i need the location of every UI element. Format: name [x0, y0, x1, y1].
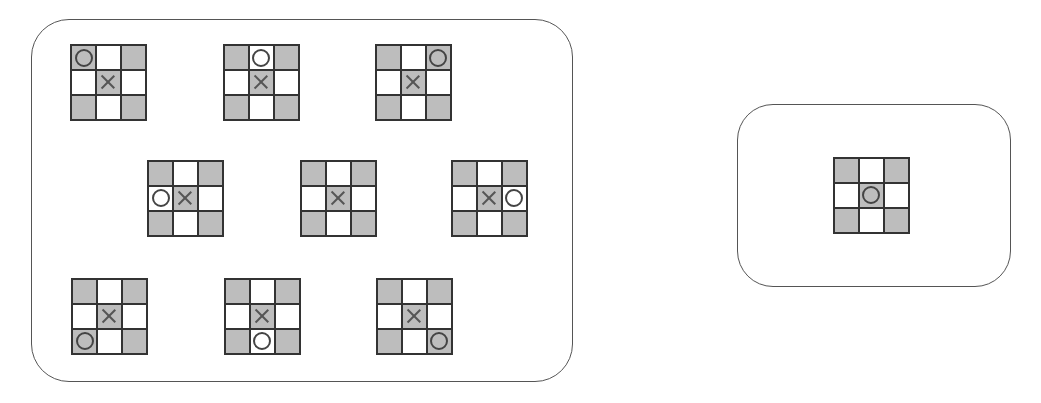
board-cell: [453, 187, 476, 210]
board-b7: [71, 278, 148, 355]
board-cell: [251, 280, 274, 303]
board-cell: [835, 159, 858, 182]
circle-mark-icon: [152, 189, 170, 207]
board-cell: [275, 96, 298, 119]
board-cell: [275, 46, 298, 69]
board-cell: [352, 187, 375, 210]
board-cell: [275, 71, 298, 94]
cross-mark-icon: [405, 74, 421, 90]
board-cell: [427, 71, 450, 94]
board-cell: [860, 159, 883, 182]
board-b9: [376, 278, 453, 355]
board-cell: [225, 71, 248, 94]
board-cell: [98, 280, 121, 303]
board-cell: [276, 305, 299, 328]
board-cell: [378, 280, 401, 303]
circle-mark-icon: [253, 332, 271, 350]
circle-mark-icon: [429, 49, 447, 67]
board-cell: [352, 212, 375, 235]
board-cell: [402, 71, 425, 94]
cross-mark-icon: [254, 308, 270, 324]
board-cell: [149, 187, 172, 210]
board-cell: [327, 212, 350, 235]
board-cell: [174, 162, 197, 185]
board-cell: [402, 46, 425, 69]
board-cell: [225, 46, 248, 69]
board-b6: [451, 160, 528, 237]
board-cell: [250, 96, 273, 119]
board-cell: [73, 280, 96, 303]
board-cell: [503, 187, 526, 210]
board-cell: [98, 305, 121, 328]
board-cell: [122, 46, 145, 69]
board-cell: [453, 212, 476, 235]
board-cell: [503, 212, 526, 235]
board-cell: [403, 330, 426, 353]
board-cell: [885, 209, 908, 232]
board-cell: [73, 305, 96, 328]
board-b3: [375, 44, 452, 121]
board-cell: [123, 330, 146, 353]
board-cell: [478, 162, 501, 185]
board-cell: [226, 330, 249, 353]
cross-mark-icon: [101, 308, 117, 324]
board-cell: [149, 162, 172, 185]
board-cell: [72, 46, 95, 69]
board-cell: [327, 162, 350, 185]
board-cell: [276, 330, 299, 353]
board-cell: [378, 330, 401, 353]
board-cell: [885, 184, 908, 207]
circle-mark-icon: [252, 49, 270, 67]
cross-mark-icon: [330, 190, 346, 206]
board-cell: [97, 71, 120, 94]
board-cell: [302, 187, 325, 210]
board-cell: [98, 330, 121, 353]
board-cell: [97, 96, 120, 119]
board-cell: [250, 71, 273, 94]
board-cell: [226, 305, 249, 328]
board-cell: [427, 46, 450, 69]
board-cell: [73, 330, 96, 353]
circle-mark-icon: [505, 189, 523, 207]
board-cell: [428, 305, 451, 328]
board-cell: [174, 187, 197, 210]
board-b5: [300, 160, 377, 237]
cross-mark-icon: [481, 190, 497, 206]
circle-mark-icon: [430, 332, 448, 350]
board-cell: [860, 184, 883, 207]
board-cell: [885, 159, 908, 182]
board-cell: [250, 46, 273, 69]
board-cell: [199, 212, 222, 235]
board-b10: [833, 157, 910, 234]
board-cell: [427, 96, 450, 119]
board-cell: [122, 96, 145, 119]
board-cell: [122, 71, 145, 94]
board-cell: [251, 330, 274, 353]
cross-mark-icon: [177, 190, 193, 206]
board-cell: [835, 209, 858, 232]
board-cell: [377, 71, 400, 94]
board-cell: [403, 280, 426, 303]
board-cell: [478, 212, 501, 235]
board-cell: [327, 187, 350, 210]
board-cell: [402, 96, 425, 119]
board-cell: [149, 212, 172, 235]
board-cell: [251, 305, 274, 328]
board-cell: [97, 46, 120, 69]
cross-mark-icon: [253, 74, 269, 90]
board-cell: [123, 280, 146, 303]
board-cell: [377, 96, 400, 119]
board-cell: [478, 187, 501, 210]
board-cell: [403, 305, 426, 328]
board-cell: [453, 162, 476, 185]
board-cell: [72, 71, 95, 94]
circle-mark-icon: [75, 49, 93, 67]
board-cell: [378, 305, 401, 328]
circle-mark-icon: [76, 332, 94, 350]
board-cell: [226, 280, 249, 303]
board-cell: [174, 212, 197, 235]
board-b1: [70, 44, 147, 121]
board-cell: [225, 96, 248, 119]
board-b8: [224, 278, 301, 355]
circle-mark-icon: [862, 186, 880, 204]
